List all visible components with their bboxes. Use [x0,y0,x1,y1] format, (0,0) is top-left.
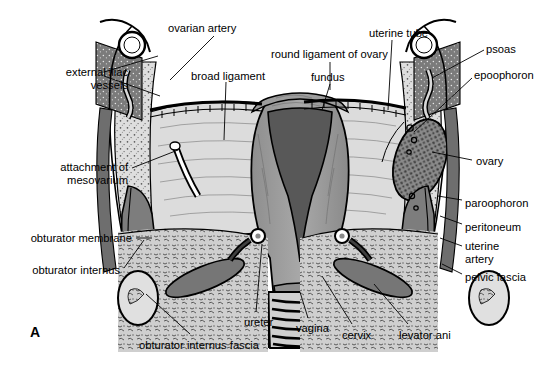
label-attachment-of-mesovarium: attachment of mesovarium [0,161,128,187]
label-pelvic-fascia: pelvic fascia [465,271,526,284]
label-epoophoron: epoophoron [474,69,534,82]
label-round-ligament-of-ovary: round ligament of ovary [271,48,388,61]
label-paroophoron: paroophoron [465,197,528,210]
label-uterine-tube: uterine tube [369,27,428,40]
leader-uterine-tube [388,40,392,110]
diagram-artwork [96,20,509,352]
label-obturator-internus-fascia: obturator internus fascia [139,339,259,352]
label-ovary: ovary [476,155,503,168]
label-cervix: cervix [342,329,371,342]
label-fundus: fundus [311,71,345,84]
label-external-iliac-vessels: external iliac vessels [0,66,128,92]
label-obturator-internus: obturator internus [0,264,120,277]
label-ureter: ureter [244,316,273,329]
ureter-left [251,229,265,243]
broad-ligament-left [146,101,268,236]
label-psoas: psoas [486,43,516,56]
label-ovarian-artery: ovarian artery [168,22,236,35]
label-uterine-artery: uterine artery [465,240,499,266]
pelvic-fascia-band-left [97,108,116,272]
label-broad-ligament: broad ligament [191,70,265,83]
label-obturator-membrane: obturator membrane [0,232,132,245]
ureter-right [335,229,349,243]
label-peritoneum: peritoneum [465,221,521,234]
figure-panel-label: A [30,324,40,340]
label-vagina: vagina [296,322,329,335]
obturator-internus-fascia-left [118,271,158,325]
label-levator-ani: levator ani [399,329,451,342]
